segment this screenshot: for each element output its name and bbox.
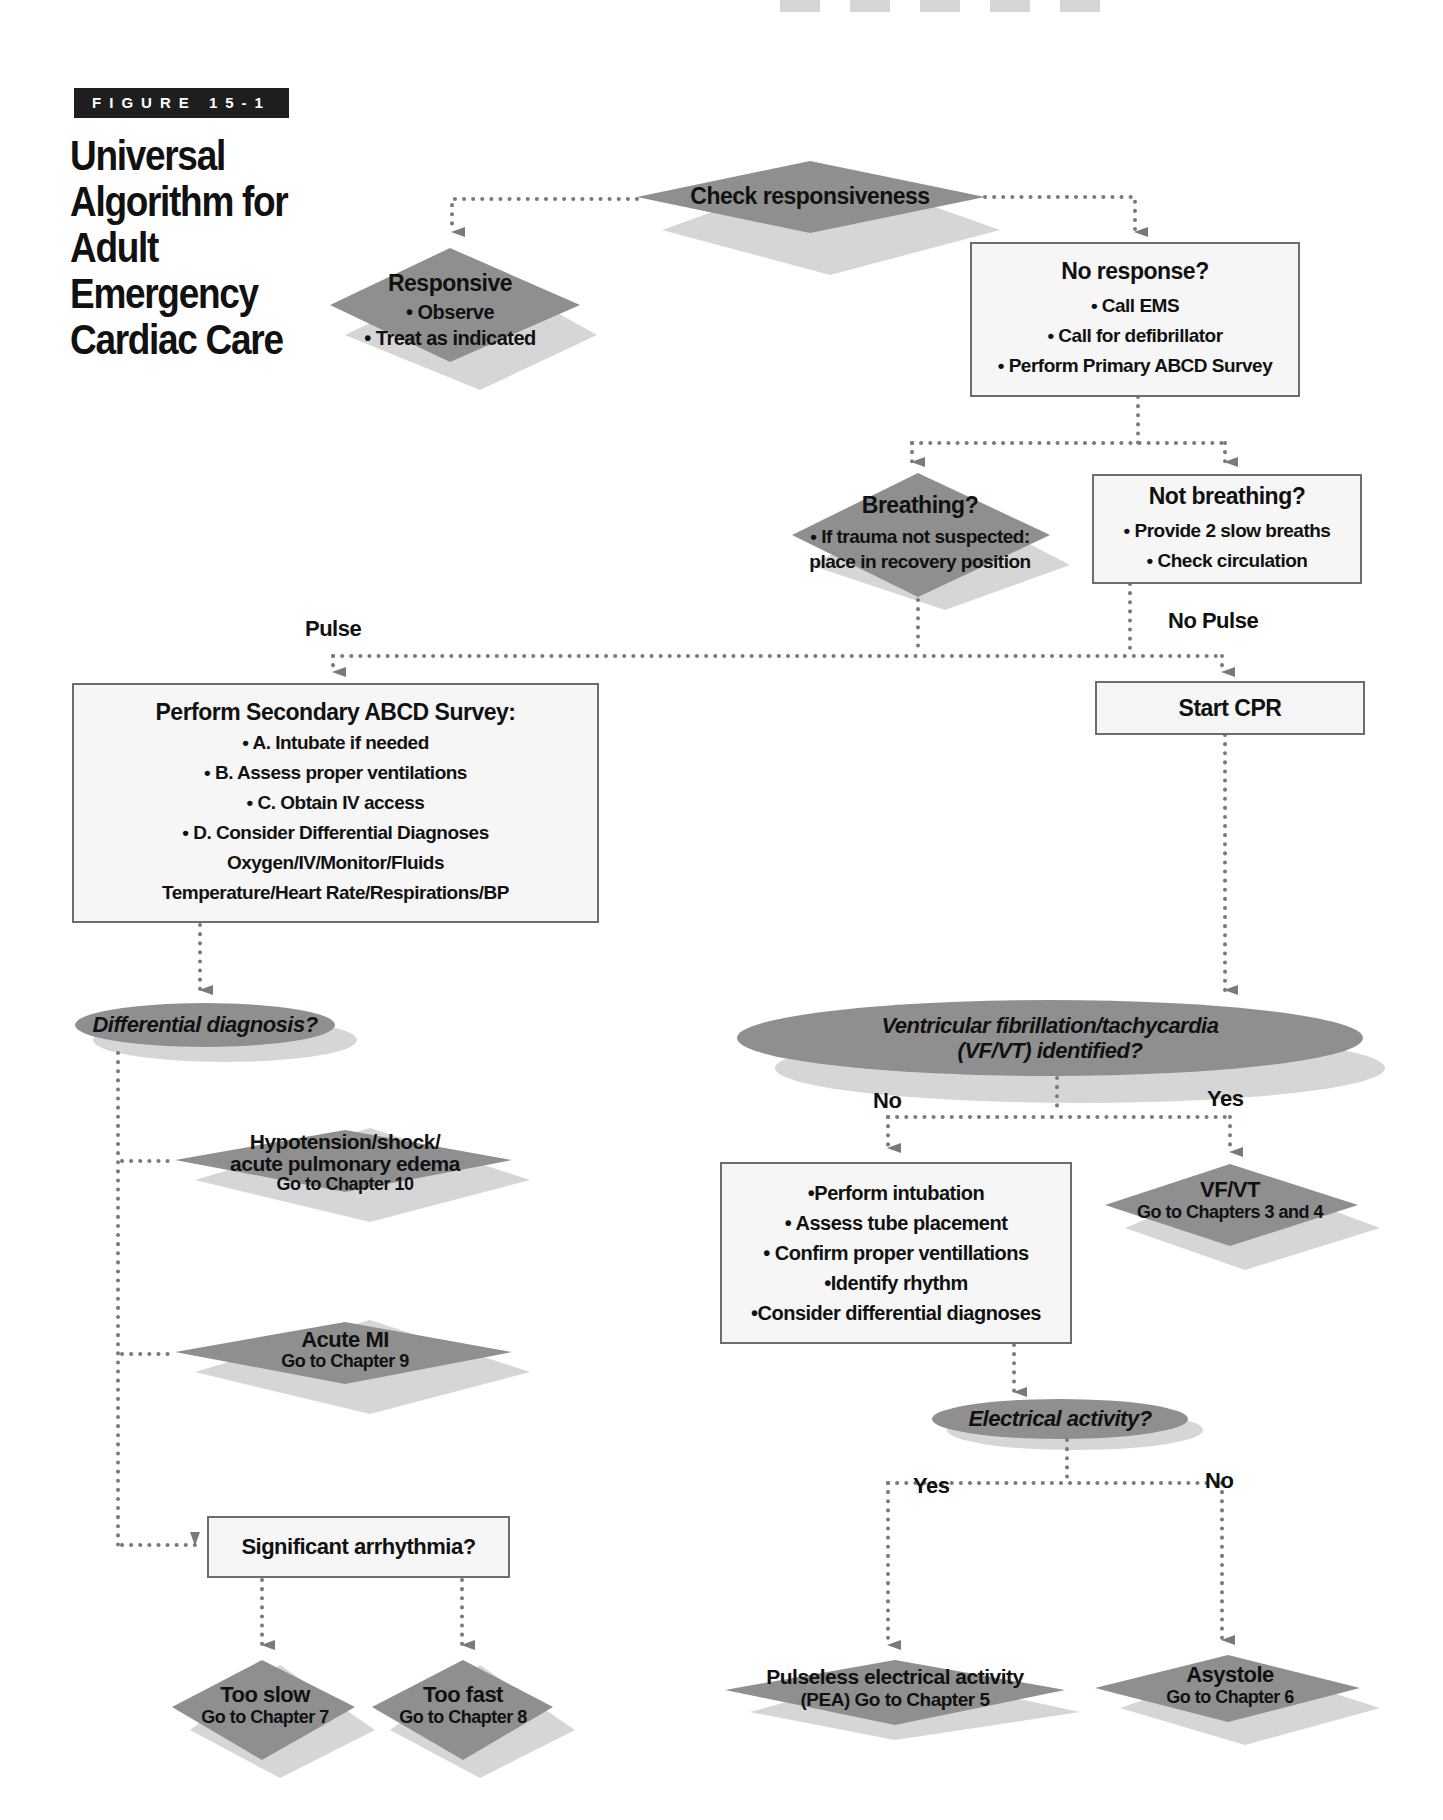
node-item: • Observe xyxy=(406,299,494,325)
no-response-box: No response? • Call EMS • Call for defib… xyxy=(970,242,1300,397)
box-item: • Call EMS xyxy=(1091,291,1179,321)
asystole-node: Asystole Go to Chapter 6 xyxy=(1110,1656,1350,1714)
box-item: • Check circulation xyxy=(1147,546,1308,576)
title-line: Cardiac Care xyxy=(70,316,345,362)
no-pulse-label: No Pulse xyxy=(1168,608,1258,634)
box-item: •Consider differential diagnoses xyxy=(751,1298,1041,1328)
box-item: • Assess tube placement xyxy=(785,1208,1008,1238)
node-label: acute pulmonary edema xyxy=(230,1153,460,1175)
node-label: Go to Chapters 3 and 4 xyxy=(1137,1202,1323,1223)
node-label: Check responsiveness xyxy=(690,182,929,212)
node-label: Differential diagnosis? xyxy=(92,1011,317,1040)
node-label: Hypotension/shock/ xyxy=(250,1131,441,1153)
node-item: place in recovery position xyxy=(809,550,1030,575)
node-label: Go to Chapter 8 xyxy=(399,1707,527,1728)
box-item: • B. Assess proper ventilations xyxy=(204,758,467,788)
significant-arrhythmia-box: Significant arrhythmia? xyxy=(207,1516,510,1578)
not-breathing-box: Not breathing? • Provide 2 slow breaths … xyxy=(1092,474,1362,584)
too-fast-node: Too fast Go to Chapter 8 xyxy=(378,1675,548,1735)
vf-yes-label: Yes xyxy=(1207,1086,1243,1112)
ea-no-label: No xyxy=(1205,1468,1233,1494)
node-label: Pulseless electrical activity xyxy=(766,1665,1024,1689)
node-label: Too slow xyxy=(220,1682,310,1707)
secondary-survey-box: Perform Secondary ABCD Survey: • A. Intu… xyxy=(72,683,599,923)
vf-no-label: No xyxy=(873,1088,901,1114)
title-line: Algorithm for xyxy=(70,178,345,224)
title-line: Adult Emergency xyxy=(70,224,345,316)
node-label: Acute MI xyxy=(301,1328,389,1352)
node-item: • Treat as indicated xyxy=(364,325,536,351)
responsive-node: Responsive • Observe • Treat as indicate… xyxy=(345,260,555,360)
pea-node: Pulseless electrical activity (PEA) Go t… xyxy=(730,1660,1060,1716)
intubation-box: •Perform intubation • Assess tube placem… xyxy=(720,1162,1072,1344)
check-responsiveness-node: Check responsiveness xyxy=(650,178,970,216)
start-cpr-box: Start CPR xyxy=(1095,681,1365,735)
title-line: Universal xyxy=(70,132,345,178)
box-title: Perform Secondary ABCD Survey: xyxy=(156,699,516,726)
hypotension-node: Hypotension/shock/ acute pulmonary edema… xyxy=(190,1122,500,1202)
box-item: • D. Consider Differential Diagnoses xyxy=(182,818,488,848)
differential-diagnosis-node: Differential diagnosis? xyxy=(75,1008,335,1042)
box-item: • Provide 2 slow breaths xyxy=(1124,516,1331,546)
box-item: •Perform intubation xyxy=(808,1178,984,1208)
node-label: Responsive xyxy=(388,269,512,299)
electrical-activity-node: Electrical activity? xyxy=(935,1402,1185,1436)
box-item: • Perform Primary ABCD Survey xyxy=(998,351,1272,381)
box-item: • Confirm proper ventillations xyxy=(763,1238,1028,1268)
node-label: Breathing? xyxy=(862,491,978,521)
figure-title: Universal Algorithm for Adult Emergency … xyxy=(70,132,345,362)
box-item: • C. Obtain IV access xyxy=(247,788,425,818)
node-label: Go to Chapter 7 xyxy=(201,1707,329,1728)
too-slow-node: Too slow Go to Chapter 7 xyxy=(180,1675,350,1735)
box-item: Temperature/Heart Rate/Respirations/BP xyxy=(162,878,509,908)
box-item: • A. Intubate if needed xyxy=(242,728,429,758)
figure-tag: FIGURE 15-1 xyxy=(74,88,289,118)
box-item: Oxygen/IV/Monitor/Fluids xyxy=(227,848,444,878)
ea-yes-label: Yes xyxy=(913,1473,949,1499)
box-title: Significant arrhythmia? xyxy=(241,1534,475,1560)
node-item: • If trauma not suspected: xyxy=(810,525,1030,550)
node-label: Ventricular fibrillation/tachycardia xyxy=(882,1013,1219,1038)
vf-vt-identified-node: Ventricular fibrillation/tachycardia (VF… xyxy=(760,1008,1340,1068)
node-label: (VF/VT) identified? xyxy=(958,1038,1143,1063)
box-title: Not breathing? xyxy=(1149,483,1306,510)
node-label: (PEA) Go to Chapter 5 xyxy=(800,1689,989,1711)
box-title: Start CPR xyxy=(1179,695,1282,722)
node-label: Electrical activity? xyxy=(968,1405,1151,1434)
node-label: Too fast xyxy=(423,1682,503,1707)
vf-vt-node: VF/VT Go to Chapters 3 and 4 xyxy=(1110,1170,1350,1230)
node-label: VF/VT xyxy=(1200,1177,1260,1202)
node-label: Go to Chapter 6 xyxy=(1166,1687,1294,1708)
breathing-node: Breathing? • If trauma not suspected: pl… xyxy=(780,483,1060,583)
box-title: No response? xyxy=(1061,258,1208,285)
pulse-label: Pulse xyxy=(305,616,361,642)
box-item: •Identify rhythm xyxy=(824,1268,967,1298)
node-label: Asystole xyxy=(1186,1662,1274,1687)
acute-mi-node: Acute MI Go to Chapter 9 xyxy=(190,1322,500,1378)
node-label: Go to Chapter 9 xyxy=(281,1352,409,1372)
node-label: Go to Chapter 10 xyxy=(276,1175,413,1194)
box-item: • Call for defibrillator xyxy=(1047,321,1222,351)
